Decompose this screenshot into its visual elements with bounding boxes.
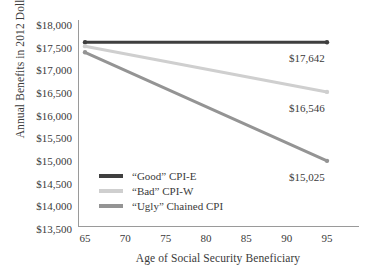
x-tick-label: 90 — [267, 232, 307, 244]
series-marker — [325, 90, 329, 94]
y-tick-label: $15,500 — [6, 132, 72, 144]
legend-swatch-icon — [99, 204, 123, 208]
chart-container: Annual Benefits in 2012 Dollars $18,000$… — [0, 0, 370, 274]
series-marker — [83, 50, 87, 54]
legend-swatch-icon — [99, 189, 123, 193]
x-tick-label: 70 — [105, 232, 145, 244]
x-axis-line — [78, 226, 359, 227]
legend-swatch-icon — [99, 174, 123, 178]
data-label: $16,546 — [289, 102, 325, 114]
series-marker — [325, 159, 329, 163]
y-tick-label: $15,000 — [6, 155, 72, 167]
legend-label: “Ugly” Chained CPI — [132, 200, 223, 212]
x-tick-label: 85 — [226, 232, 266, 244]
legend-item[interactable]: “Good” CPI-E — [99, 168, 223, 183]
series-marker — [83, 40, 87, 44]
legend-label: “Good” CPI-E — [132, 170, 196, 182]
y-tick-label: $18,000 — [6, 19, 72, 31]
chart-legend: “Good” CPI-E“Bad” CPI-W“Ugly” Chained CP… — [99, 168, 223, 213]
y-tick-label: $14,500 — [6, 178, 72, 190]
y-tick-label: $13,500 — [6, 223, 72, 235]
x-tick-label: 95 — [307, 232, 347, 244]
legend-item[interactable]: “Bad” CPI-W — [99, 183, 223, 198]
y-tick-label: $14,000 — [6, 200, 72, 212]
series-marker — [325, 40, 329, 44]
x-tick-label: 65 — [65, 232, 105, 244]
y-axis-tick-labels: $18,000$17,500$17,000$16,500$16,000$15,5… — [6, 0, 72, 274]
x-axis-title: Age of Social Security Beneficiary — [78, 252, 358, 264]
y-tick-label: $16,000 — [6, 110, 72, 122]
y-tick-label: $16,500 — [6, 87, 72, 99]
series-marker — [83, 44, 87, 48]
legend-item[interactable]: “Ugly” Chained CPI — [99, 198, 223, 213]
legend-label: “Bad” CPI-W — [132, 185, 193, 197]
y-tick-label: $17,500 — [6, 42, 72, 54]
data-label: $17,642 — [289, 52, 325, 64]
x-tick-label: 75 — [146, 232, 186, 244]
x-tick-label: 80 — [186, 232, 226, 244]
y-tick-label: $17,000 — [6, 64, 72, 76]
y-axis-line — [78, 20, 79, 226]
data-label: $15,025 — [289, 171, 325, 183]
